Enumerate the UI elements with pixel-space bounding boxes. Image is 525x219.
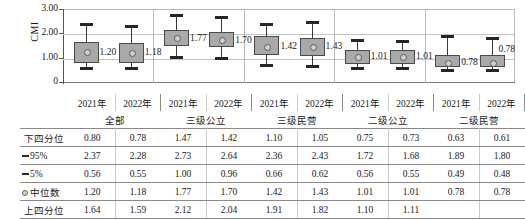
table-row: 上四分位1.641.592.122.041.911.821.101.11 [20, 201, 525, 219]
whisker-cap-p95 [396, 40, 409, 43]
table-row-label-text: 下四分位 [24, 134, 64, 144]
y-axis-tick-labels: 3.002.001.000 [20, 0, 58, 95]
table-cell: 0.56 [343, 165, 389, 183]
table-header-year: 2021年 [161, 94, 207, 111]
median-value-label: 1.01 [416, 52, 433, 62]
table-cell: 0.80 [70, 129, 115, 147]
table-cell: 1.80 [479, 147, 525, 165]
table-cell: 2.04 [206, 201, 252, 219]
whisker-cap-p95 [351, 39, 364, 42]
median-value-label: 1.42 [280, 42, 297, 52]
table-header-group-row: 全部三级公立三级民营二级公立二级民营 [20, 111, 525, 129]
table-cell: 1.00 [161, 165, 207, 183]
whisker-cap-p95 [306, 21, 319, 24]
table-cell [479, 201, 525, 219]
whisker-legend-icon [22, 155, 29, 158]
table-header-year: 2022年 [115, 94, 161, 111]
whisker-upper [221, 18, 222, 33]
table-cell: 2.12 [161, 201, 207, 219]
table-row-label: 5% [20, 165, 70, 183]
table-cell: 0.55 [388, 165, 434, 183]
table-cell: 1.05 [297, 129, 343, 147]
group-separator [244, 9, 245, 83]
table-row: 95%2.372.282.732.642.362.431.721.681.891… [20, 147, 525, 165]
table-row-label-text: 95% [30, 151, 47, 161]
table-header-group: 三级公立 [161, 111, 252, 129]
table-cell: 0.78 [479, 183, 525, 201]
whisker-upper [86, 24, 87, 42]
table-cell: 0.96 [206, 165, 252, 183]
table-corner-cell-2 [20, 111, 70, 129]
table-cell: 1.77 [161, 183, 207, 201]
median-marker [400, 54, 407, 61]
whisker-upper [447, 36, 448, 55]
table-header-year-row: 2021年2022年2021年2022年2021年2022年2021年2022年… [20, 94, 525, 111]
table-corner-cell [20, 94, 70, 111]
table-head: 2021年2022年2021年2022年2021年2022年2021年2022年… [20, 94, 525, 129]
whisker-cap-p5 [260, 64, 273, 67]
median-value-label: 1.20 [100, 48, 117, 58]
whisker-cap-p95 [80, 23, 93, 26]
table-body: 下四分位0.800.781.471.421.101.050.750.730.63… [20, 129, 525, 219]
median-legend-icon [22, 190, 28, 196]
table-row-label-text: 上四分位 [24, 206, 64, 216]
table-cell: 1.01 [343, 183, 389, 201]
y-axis-tick [59, 82, 64, 83]
table-row-label: 95% [20, 147, 70, 165]
whisker-cap-p95 [441, 35, 454, 38]
table-cell: 1.64 [70, 201, 115, 219]
data-table-wrapper: 2021年2022年2021年2022年2021年2022年2021年2022年… [20, 94, 516, 219]
boxplot-chart: CMI 3.002.001.000 1.201.181.771.701.421.… [0, 0, 524, 95]
whisker-cap-p5 [170, 56, 183, 59]
table-cell: 2.64 [206, 147, 252, 165]
median-value-label: 1.70 [235, 36, 252, 46]
median-value-label: 1.43 [326, 42, 343, 52]
table-cell: 2.73 [161, 147, 207, 165]
group-separator [425, 9, 426, 83]
whisker-cap-p5 [351, 67, 364, 70]
median-marker [129, 50, 136, 57]
y-tick-label-1.00: 1.00 [22, 53, 58, 63]
whisker-cap-p5 [441, 69, 454, 72]
whisker-upper [266, 25, 267, 36]
table-cell: 0.75 [343, 129, 389, 147]
table-cell: 0.78 [115, 129, 161, 147]
median-marker [445, 60, 452, 67]
table-cell: 1.70 [206, 183, 252, 201]
whisker-cap-p95 [486, 37, 499, 40]
median-marker [84, 49, 91, 56]
table-row-label: 上四分位 [20, 201, 70, 219]
table-row-label: 下四分位 [20, 129, 70, 147]
median-value-label: 1.77 [190, 34, 207, 44]
table-cell: 1.42 [252, 183, 298, 201]
whisker-cap-p5 [306, 65, 319, 68]
table-header-group: 二级民营 [434, 111, 525, 129]
table-row-label-text: 5% [30, 169, 43, 179]
median-value-label: 0.78 [461, 58, 478, 68]
whisker-cap-p5 [486, 69, 499, 72]
table-header-group: 二级公立 [343, 111, 434, 129]
whisker-upper [176, 16, 177, 31]
table-header-year: 2022年 [479, 94, 525, 111]
table-cell: 1.10 [252, 129, 298, 147]
y-axis-tick [59, 58, 64, 59]
whisker-cap-p5 [80, 67, 93, 70]
y-tick-label-2.00: 2.00 [22, 28, 58, 38]
table-cell: 2.36 [252, 147, 298, 165]
table-cell: 1.01 [388, 183, 434, 201]
y-axis-tick [59, 9, 64, 10]
data-table: 2021年2022年2021年2022年2021年2022年2021年2022年… [20, 94, 525, 219]
table-header-year: 2022年 [297, 94, 343, 111]
table-header-group: 全部 [70, 111, 161, 129]
table-row: 中位数1.201.181.771.701.421.431.011.010.780… [20, 183, 525, 201]
table-cell: 1.89 [434, 147, 480, 165]
table-cell: 1.20 [70, 183, 115, 201]
table-header-year: 2021年 [343, 94, 389, 111]
whisker-upper [131, 27, 132, 44]
whisker-upper [312, 23, 313, 38]
table-cell: 1.43 [297, 183, 343, 201]
table-cell: 0.73 [388, 129, 434, 147]
median-value-label: 1.01 [371, 52, 388, 62]
whisker-cap-p5 [215, 57, 228, 60]
y-axis-tick [59, 33, 64, 34]
